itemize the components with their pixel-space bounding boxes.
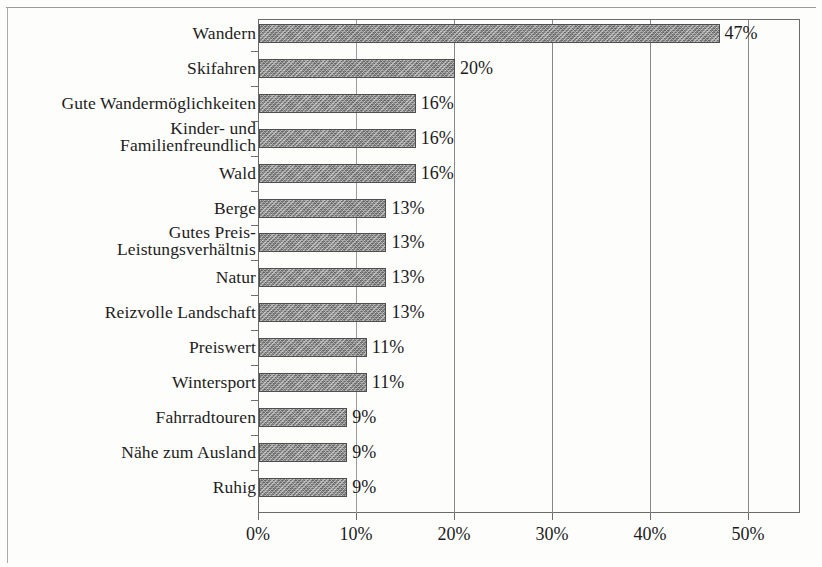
bar (259, 199, 386, 218)
bar-value-label: 9% (352, 443, 376, 462)
y-axis-tick (251, 365, 258, 366)
category-label: Skifahren (6, 59, 256, 77)
bar (259, 233, 386, 252)
bar-value-label: 16% (421, 94, 454, 113)
bar-value-label: 9% (352, 408, 376, 427)
x-axis-tick (748, 513, 749, 520)
bar-value-label: 13% (391, 233, 424, 252)
y-axis-tick (251, 295, 258, 296)
bar (259, 303, 386, 322)
x-axis-tick-label: 20% (424, 524, 484, 545)
y-axis-tick (251, 470, 258, 471)
bar (259, 373, 367, 392)
category-label: Wandern (6, 24, 256, 42)
category-label: Wintersport (6, 373, 256, 391)
bar-value-label: 13% (391, 268, 424, 287)
x-axis-tick (454, 513, 455, 520)
category-label: Reizvolle Landschaft (6, 303, 256, 321)
x-axis-tick-label: 40% (620, 524, 680, 545)
bar (259, 443, 347, 462)
category-label: Kinder- undFamilienfreundlich (6, 120, 256, 154)
bar-rows: Wandern47%Skifahren20%Gute Wandermöglich… (0, 0, 822, 567)
bar (259, 478, 347, 497)
bar-value-label: 13% (391, 303, 424, 322)
category-label: Nähe zum Ausland (6, 443, 256, 461)
x-axis-tick-label: 0% (228, 524, 288, 545)
category-label: Fahrradtouren (6, 408, 256, 426)
x-axis-tick-label: 30% (522, 524, 582, 545)
x-axis-tick (650, 513, 651, 520)
category-label: Ruhig (6, 478, 256, 496)
bar-value-label: 13% (391, 199, 424, 218)
bar (259, 24, 720, 43)
bar-value-label: 16% (421, 164, 454, 183)
bar (259, 59, 455, 78)
category-label: Preiswert (6, 338, 256, 356)
y-axis-tick (251, 435, 258, 436)
y-axis-tick (251, 260, 258, 261)
x-axis-tick (356, 513, 357, 520)
bar-value-label: 11% (372, 373, 404, 392)
bar (259, 268, 386, 287)
chart-page: Wandern47%Skifahren20%Gute Wandermöglich… (0, 0, 822, 567)
bar-value-label: 20% (460, 59, 493, 78)
x-axis-tick (552, 513, 553, 520)
bar (259, 408, 347, 427)
bar (259, 94, 416, 113)
bar (259, 129, 416, 148)
y-axis-tick (251, 121, 258, 122)
bar (259, 164, 416, 183)
category-label: Wald (6, 164, 256, 182)
y-axis-tick (251, 225, 258, 226)
x-axis-tick (258, 513, 259, 520)
y-axis-tick (251, 156, 258, 157)
bar-value-label: 11% (372, 338, 404, 357)
bar-value-label: 47% (725, 24, 758, 43)
bar-value-label: 16% (421, 129, 454, 148)
category-label: Gute Wandermöglichkeiten (6, 94, 256, 112)
x-axis-tick-label: 10% (326, 524, 386, 545)
y-axis-tick (251, 330, 258, 331)
y-axis-tick (251, 191, 258, 192)
category-label: Gutes Preis-Leistungsverhältnis (6, 224, 256, 258)
y-axis-tick (251, 400, 258, 401)
bar (259, 338, 367, 357)
y-axis-tick (251, 86, 258, 87)
x-axis-tick-label: 50% (718, 524, 778, 545)
category-label: Natur (6, 268, 256, 286)
y-axis-tick (251, 51, 258, 52)
category-label: Berge (6, 199, 256, 217)
bar-value-label: 9% (352, 478, 376, 497)
